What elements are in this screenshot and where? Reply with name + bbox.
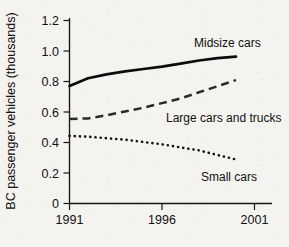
y-axis-tick-labels: 1.2 1.0 0.8 0.6 0.4 0.2 0 xyxy=(42,14,59,211)
series-label-midsize-cars: Midsize cars xyxy=(194,36,261,50)
chart-figure: 1.2 1.0 0.8 0.6 0.4 0.2 0 1991 1996 2001… xyxy=(0,0,289,247)
y-tick-label-0-4: 0.4 xyxy=(42,136,59,150)
x-axis-ticks xyxy=(70,204,255,211)
y-tick-label-0-8: 0.8 xyxy=(42,75,59,89)
y-tick-label-0-2: 0.2 xyxy=(42,167,59,181)
x-tick-label-2001: 2001 xyxy=(241,213,269,227)
series-label-small-cars: Small cars xyxy=(201,170,257,184)
y-tick-label-1-2: 1.2 xyxy=(42,14,59,28)
series-line-small-cars xyxy=(70,136,237,160)
series-line-midsize-cars xyxy=(70,57,237,86)
x-tick-label-1996: 1996 xyxy=(148,213,176,227)
series-label-large-cars-trucks: Large cars and trucks xyxy=(166,111,281,125)
x-axis-tick-labels: 1991 1996 2001 xyxy=(56,213,269,227)
line-chart-canvas: 1.2 1.0 0.8 0.6 0.4 0.2 0 1991 1996 2001… xyxy=(0,0,289,247)
y-tick-label-0-6: 0.6 xyxy=(42,106,59,120)
y-axis-title: BC passenger vehicles (thousands) xyxy=(4,12,18,209)
y-tick-label-1-0: 1.0 xyxy=(42,45,59,59)
y-tick-label-0: 0 xyxy=(52,197,59,211)
y-axis-ticks xyxy=(64,21,70,204)
x-tick-label-1991: 1991 xyxy=(56,213,84,227)
